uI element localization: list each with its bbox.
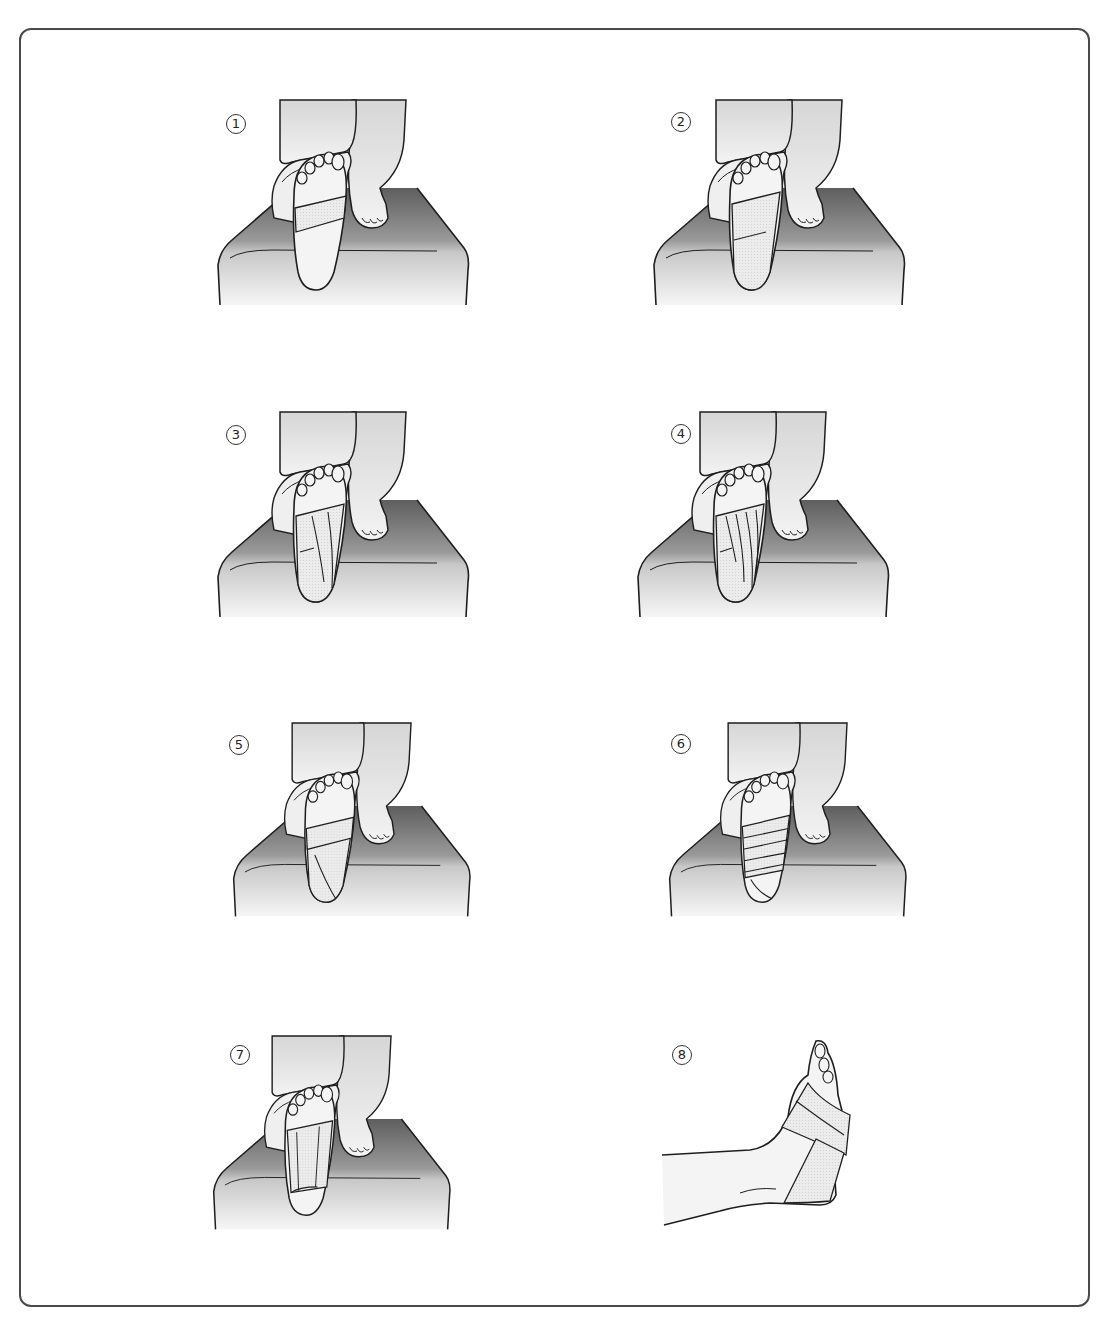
finished-tape xyxy=(287,1121,332,1193)
step-8-illustration xyxy=(660,1035,880,1235)
step-1-illustration xyxy=(212,100,477,310)
step-4-illustration xyxy=(632,412,897,622)
step-7-illustration xyxy=(208,1035,458,1235)
step-5-illustration xyxy=(228,722,478,922)
step-3-illustration xyxy=(212,412,477,622)
figure-frame xyxy=(19,28,1090,1307)
step-6-illustration xyxy=(664,722,914,922)
step-2-illustration xyxy=(648,100,913,310)
